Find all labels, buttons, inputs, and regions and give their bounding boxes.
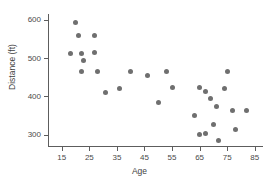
data-point [203,89,208,94]
scatter-plot-figure: 300400500600 1525354555657585 Age Distan… [0,0,279,185]
data-point [197,85,202,90]
data-point [76,33,81,38]
data-point [216,138,221,143]
x-axis-title: Age [0,166,279,176]
data-point [68,51,73,56]
data-point [145,73,150,78]
data-point [208,96,213,101]
data-point [214,104,219,109]
data-point [211,122,216,127]
data-point [81,58,86,63]
data-point [92,33,97,38]
data-point [233,127,238,132]
data-point [170,85,175,90]
plot-area [0,0,279,185]
data-point [117,86,122,91]
data-point [197,132,202,137]
data-point [225,69,230,74]
data-point [156,100,161,105]
data-point [230,108,235,113]
data-point [203,131,208,136]
data-point [95,69,100,74]
data-point [192,113,197,118]
data-point [164,69,169,74]
data-point [73,20,78,25]
data-point [79,51,84,56]
data-point [79,69,84,74]
data-point [128,69,133,74]
data-point [222,86,227,91]
data-point [103,90,108,95]
data-point [92,50,97,55]
data-point [244,108,249,113]
y-axis-title: Distance (ft) [7,27,17,107]
